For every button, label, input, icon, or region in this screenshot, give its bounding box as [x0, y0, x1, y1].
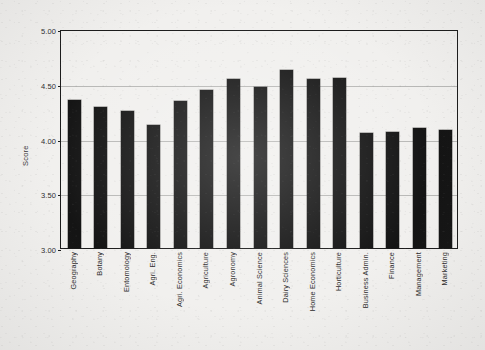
x-axis-tick-label: Finance [385, 252, 398, 279]
bar [227, 79, 240, 248]
bar [147, 125, 160, 248]
x-axis-tick-label: Agri. Economics [173, 252, 186, 307]
y-axis-tick-label: 5.00 [41, 27, 56, 36]
bar [360, 133, 373, 248]
bar [200, 90, 213, 248]
x-axis-tick-label: Home Economics [306, 252, 319, 311]
y-axis-tick-label: 4.00 [41, 136, 56, 145]
x-axis-tick-label: Management [412, 252, 425, 296]
x-axis-tick-label: Horticulture [332, 252, 345, 291]
x-axis-tick-label: Botany [93, 252, 106, 276]
x-axis-tick-label: Marketing [438, 252, 451, 285]
x-axis-tick-label: Business Admin. [359, 252, 372, 308]
bar [174, 101, 187, 248]
bars-layer [61, 31, 457, 248]
x-axis-tick-label: Dairy Sciences [279, 252, 292, 303]
x-axis-tick-label: Animal Science [253, 252, 266, 304]
y-axis-title: Score [18, 126, 32, 186]
x-axis-tick-label: Entomology [120, 252, 133, 292]
bar [307, 79, 320, 248]
x-axis-tick-label: Agriculture [199, 252, 212, 289]
bar [386, 132, 399, 248]
bar [280, 70, 293, 248]
y-axis-tick-label: 3.50 [41, 191, 56, 200]
bar [94, 107, 107, 248]
bar [333, 78, 346, 248]
bar [439, 130, 452, 248]
bar-chart: Score 5.004.504.003.503.00 GeographyBota… [0, 0, 485, 350]
x-axis-tick-label: Agri. Eng. [146, 252, 159, 286]
plot-area: 5.004.504.003.503.00 [60, 30, 458, 249]
y-axis-tick-mark [58, 250, 61, 251]
x-axis-tick-label: Geography [67, 252, 80, 289]
y-axis-tick-label: 4.50 [41, 81, 56, 90]
x-axis-tick-label: Agronomy [226, 252, 239, 286]
bar [121, 111, 134, 248]
bar [254, 87, 267, 248]
y-axis-tick-label: 3.00 [41, 246, 56, 255]
bar [68, 100, 81, 248]
x-axis-labels: GeographyBotanyEntomologyAgri. Eng.Agri.… [60, 252, 458, 348]
bar [413, 128, 426, 248]
